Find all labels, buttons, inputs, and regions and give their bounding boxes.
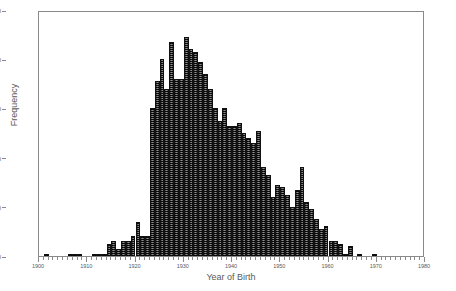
x-tick-minor	[405, 257, 406, 260]
x-tick-label: 1970	[370, 263, 382, 270]
x-tick-minor	[163, 257, 164, 260]
y-tick	[2, 109, 6, 110]
x-tick-minor	[77, 257, 78, 260]
x-tick-minor	[366, 257, 367, 260]
x-tick-major	[279, 257, 280, 262]
histogram-bar	[372, 254, 377, 256]
y-tick	[2, 257, 6, 258]
x-tick-major	[86, 257, 87, 262]
x-tick-minor	[347, 257, 348, 260]
x-tick-minor	[149, 257, 150, 260]
x-tick-minor	[400, 257, 401, 260]
y-tick-label: 60	[0, 106, 1, 112]
x-tick-minor	[192, 257, 193, 260]
x-tick-major	[231, 257, 232, 262]
x-tick-major	[376, 257, 377, 262]
x-tick-minor	[48, 257, 49, 260]
x-tick-minor	[308, 257, 309, 260]
x-tick-minor	[125, 257, 126, 260]
y-tick-label: 80	[0, 57, 1, 63]
x-tick-minor	[337, 257, 338, 260]
x-tick-minor	[115, 257, 116, 260]
x-tick-minor	[221, 257, 222, 260]
x-tick-minor	[395, 257, 396, 260]
x-tick-label: 1910	[80, 263, 92, 270]
x-tick-minor	[62, 257, 63, 260]
x-tick-minor	[274, 257, 275, 260]
x-tick-minor	[217, 257, 218, 260]
x-tick-minor	[188, 257, 189, 260]
x-tick-minor	[57, 257, 58, 260]
x-tick-minor	[72, 257, 73, 260]
x-tick-minor	[245, 257, 246, 260]
x-tick-minor	[255, 257, 256, 260]
y-tick	[2, 11, 6, 12]
x-tick-major	[38, 257, 39, 262]
x-axis-title: Year of Birth	[38, 272, 424, 282]
x-tick-minor	[236, 257, 237, 260]
x-tick-minor	[414, 257, 415, 260]
x-tick-minor	[226, 257, 227, 260]
x-tick-minor	[106, 257, 107, 260]
y-axis: Frequency 020406080100	[0, 0, 38, 291]
x-tick-minor	[270, 257, 271, 260]
x-tick-minor	[120, 257, 121, 260]
x-tick-label: 1950	[273, 263, 285, 270]
x-tick-minor	[43, 257, 44, 260]
x-tick-label: 1930	[177, 263, 189, 270]
x-tick-minor	[332, 257, 333, 260]
x-tick-minor	[110, 257, 111, 260]
y-axis-title: Frequency	[9, 63, 19, 147]
histogram-bars	[39, 12, 423, 256]
x-tick-minor	[361, 257, 362, 260]
x-tick-minor	[299, 257, 300, 260]
x-tick-minor	[202, 257, 203, 260]
x-tick-label: 1980	[418, 263, 430, 270]
x-tick-minor	[91, 257, 92, 260]
x-tick-minor	[178, 257, 179, 260]
x-tick-minor	[318, 257, 319, 260]
x-tick-minor	[284, 257, 285, 260]
y-tick	[2, 60, 6, 61]
x-tick-minor	[212, 257, 213, 260]
x-tick-minor	[352, 257, 353, 260]
histogram-figure: Frequency 020406080100 19001910192019301…	[0, 0, 456, 291]
x-tick-minor	[101, 257, 102, 260]
x-tick-major	[183, 257, 184, 262]
x-tick-label: 1960	[321, 263, 333, 270]
x-tick-major	[424, 257, 425, 262]
x-tick-minor	[81, 257, 82, 260]
x-tick-minor	[390, 257, 391, 260]
x-tick-major	[328, 257, 329, 262]
x-tick-minor	[52, 257, 53, 260]
x-tick-minor	[173, 257, 174, 260]
x-tick-minor	[381, 257, 382, 260]
x-tick-minor	[67, 257, 68, 260]
y-tick	[2, 158, 6, 159]
histogram-bar	[357, 254, 362, 256]
x-tick-minor	[265, 257, 266, 260]
x-tick-minor	[356, 257, 357, 260]
x-tick-minor	[342, 257, 343, 260]
histogram-bar	[78, 254, 83, 256]
x-tick-minor	[144, 257, 145, 260]
x-tick-minor	[294, 257, 295, 260]
y-tick-label: 40	[0, 156, 1, 162]
x-tick-minor	[385, 257, 386, 260]
x-tick-minor	[250, 257, 251, 260]
plot-area	[38, 11, 424, 257]
histogram-bar	[44, 254, 49, 256]
x-tick-minor	[197, 257, 198, 260]
x-tick-minor	[419, 257, 420, 260]
x-tick-minor	[159, 257, 160, 260]
x-tick-minor	[241, 257, 242, 260]
x-tick-minor	[168, 257, 169, 260]
x-tick-minor	[130, 257, 131, 260]
x-tick-minor	[139, 257, 140, 260]
y-tick-label: 0	[0, 254, 1, 260]
x-tick-label: 1900	[32, 263, 44, 270]
x-tick-minor	[323, 257, 324, 260]
y-tick-label: 100	[0, 8, 1, 14]
x-tick-minor	[303, 257, 304, 260]
y-tick-label: 20	[0, 205, 1, 211]
